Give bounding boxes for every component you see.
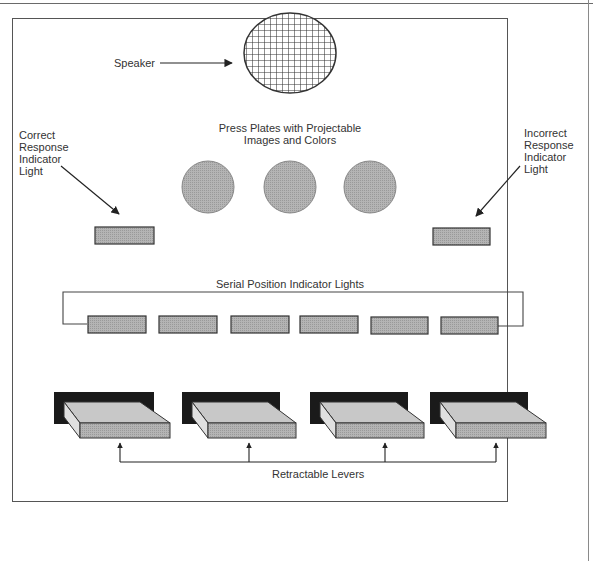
lever-arrows (120, 443, 496, 462)
correct-response-light (95, 227, 154, 244)
press-plates (182, 161, 396, 213)
lever-2 (182, 392, 296, 438)
press-plates-label: Press Plates with Projectable Images and… (208, 122, 372, 146)
speaker-grille-icon (244, 13, 336, 93)
levers-label: Retractable Levers (272, 468, 364, 480)
incorrect-light-label: Incorrect Response Indicator Light (524, 127, 574, 175)
incorrect-response-light (433, 228, 490, 245)
lever-4 (430, 392, 546, 438)
lever-1 (54, 392, 170, 438)
lever-3 (310, 392, 424, 438)
retractable-levers (54, 392, 546, 438)
correct-light-label: Correct Response Indicator Light (19, 129, 69, 177)
correct-light-arrow (61, 166, 119, 214)
serial-position-lights (88, 316, 498, 334)
serial-lights-label: Serial Position Indicator Lights (200, 278, 380, 290)
incorrect-light-arrow (476, 166, 520, 216)
speaker-label: Speaker (114, 57, 155, 69)
